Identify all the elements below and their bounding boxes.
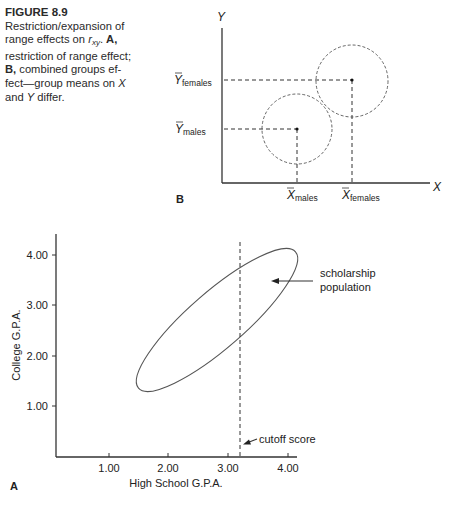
x-tick-label: 1.00 xyxy=(98,462,119,474)
annotation-population: population xyxy=(320,281,371,293)
panel-b-label: B xyxy=(176,193,184,205)
y-tick-label: 1.00 xyxy=(27,400,48,412)
x-axis-title: High School G.P.A. xyxy=(129,477,222,489)
annotation-cutoff: cutoff score xyxy=(259,433,316,445)
females-mean-point xyxy=(350,78,353,81)
y-tick-label: 4.00 xyxy=(27,249,48,261)
y-tick-label: 3.00 xyxy=(27,299,48,311)
x-tick-label: 4.00 xyxy=(277,462,298,474)
panel-b xyxy=(222,28,430,183)
panel-a-label: A xyxy=(10,480,18,492)
x-males-subscript: males xyxy=(295,193,318,203)
figure-canvas: Y X Y females Y males X males X females … xyxy=(0,0,449,509)
x-tick-label: 3.00 xyxy=(217,462,238,474)
panel-a xyxy=(52,231,314,457)
y-axis-title: College G.P.A. xyxy=(10,309,22,380)
x-axis-label: X xyxy=(432,180,442,194)
y-tick-label: 2.00 xyxy=(27,350,48,362)
y-males-subscript: males xyxy=(183,127,206,137)
panel-a-labels: 4.00 3.00 2.00 1.00 1.00 2.00 3.00 4.00 … xyxy=(10,249,376,492)
annotation-scholarship: scholarship xyxy=(320,267,376,279)
scholarship-ellipse xyxy=(120,231,314,410)
males-mean-point xyxy=(295,127,298,130)
x-tick-label: 2.00 xyxy=(157,462,178,474)
panel-b-labels: Y X Y females Y males X males X females … xyxy=(174,10,442,205)
arrowhead-icon xyxy=(271,278,279,284)
x-females-subscript: females xyxy=(350,193,380,203)
arrowhead-icon xyxy=(243,440,251,445)
y-axis-label: Y xyxy=(217,10,226,24)
y-females-subscript: females xyxy=(182,78,212,88)
